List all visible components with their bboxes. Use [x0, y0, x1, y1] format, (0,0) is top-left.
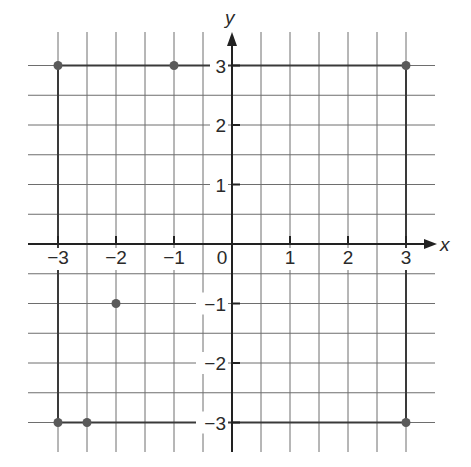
- y-tick-label: −3: [204, 413, 226, 434]
- x-tick-label: −1: [163, 247, 185, 268]
- x-tick-label: 0: [217, 247, 228, 268]
- y-axis-label: y: [223, 7, 236, 28]
- x-axis-arrow-icon: [424, 239, 437, 249]
- coordinate-plane: x y −3−2−10123321−1−2−3: [0, 0, 471, 467]
- y-tick-label: −2: [204, 353, 226, 374]
- x-tick-label: −2: [105, 247, 127, 268]
- y-tick-label: 3: [215, 56, 226, 77]
- plotted-point: [54, 418, 63, 427]
- plotted-point: [83, 418, 92, 427]
- x-axis-label: x: [439, 234, 451, 255]
- x-tick-label: 1: [285, 247, 296, 268]
- plotted-point: [54, 61, 63, 70]
- plotted-point: [402, 61, 411, 70]
- y-tick-label: −1: [204, 294, 226, 315]
- axes: x y: [28, 7, 451, 452]
- y-axis-arrow-icon: [227, 32, 237, 46]
- x-tick-label: −3: [47, 247, 69, 268]
- x-tick-label: 2: [343, 247, 354, 268]
- plotted-point: [112, 299, 121, 308]
- y-tick-label: 1: [215, 175, 226, 196]
- plotted-point: [170, 61, 179, 70]
- plotted-point: [402, 418, 411, 427]
- x-tick-label: 3: [401, 247, 412, 268]
- y-tick-label: 2: [215, 115, 226, 136]
